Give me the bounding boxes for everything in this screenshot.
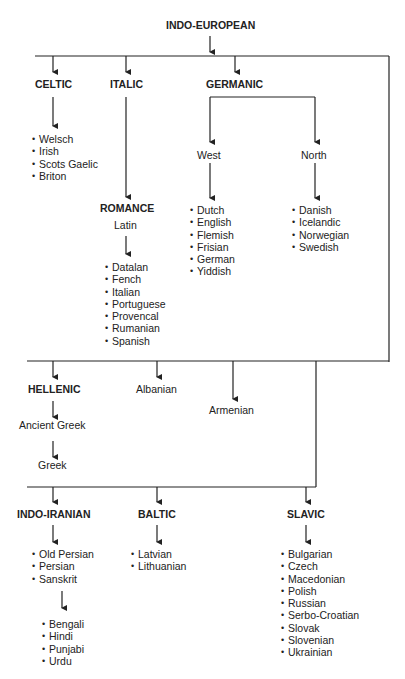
list-item: Irish <box>32 145 98 157</box>
armenian-label: Armenian <box>209 404 254 416</box>
list-item: Russian <box>281 597 359 609</box>
italic-label: ITALIC <box>110 78 143 90</box>
hellenic-label: HELLENIC <box>28 383 81 395</box>
slavic-list: Bulgarian Czech Macedonian Polish Russia… <box>281 548 359 659</box>
list-item: Rumanian <box>105 322 166 334</box>
indo-iranian-list: Old Persian Persian Sanskrit <box>32 548 94 585</box>
list-item: Polish <box>281 585 359 597</box>
list-item: Persian <box>32 560 94 572</box>
list-item: Norwegian <box>292 229 349 241</box>
list-item: German <box>190 253 235 265</box>
romance-list: Datalan Fench Italian Portuguese Provenc… <box>105 261 166 347</box>
north-germanic-list: Danish Icelandic Norwegian Swedish <box>292 204 349 253</box>
list-item: Slovak <box>281 622 359 634</box>
list-item: English <box>190 216 235 228</box>
list-item: Scots Gaelic <box>32 158 98 170</box>
root-label: INDO-EUROPEAN <box>166 19 255 31</box>
baltic-label: BALTIC <box>138 508 176 520</box>
list-item: Briton <box>32 170 98 182</box>
list-item: Welsch <box>32 133 98 145</box>
list-item: Slovenian <box>281 634 359 646</box>
sanskrit-descendants-list: Bengali Hindi Punjabi Urdu <box>42 618 84 667</box>
greek-label: Greek <box>38 459 67 471</box>
list-item: Datalan <box>105 261 166 273</box>
list-item: Icelandic <box>292 216 349 228</box>
list-item: Yiddish <box>190 265 235 277</box>
list-item: Flemish <box>190 229 235 241</box>
germanic-label: GERMANIC <box>206 78 263 90</box>
list-item: Spanish <box>105 335 166 347</box>
list-item: Urdu <box>42 655 84 667</box>
celtic-list: Welsch Irish Scots Gaelic Briton <box>32 133 98 182</box>
list-item: Italian <box>105 286 166 298</box>
list-item: Bulgarian <box>281 548 359 560</box>
romance-label: ROMANCE <box>100 202 154 214</box>
list-item: Danish <box>292 204 349 216</box>
list-item: Old Persian <box>32 548 94 560</box>
list-item: Frisian <box>190 241 235 253</box>
list-item: Macedonian <box>281 573 359 585</box>
celtic-label: CELTIC <box>35 78 72 90</box>
list-item: Lithuanian <box>131 560 186 572</box>
west-label: West <box>197 149 221 161</box>
albanian-label: Albanian <box>136 383 177 395</box>
ancient-greek-label: Ancient Greek <box>19 419 86 431</box>
list-item: Hindi <box>42 630 84 642</box>
list-item: Provencal <box>105 310 166 322</box>
list-item: Serbo-Croatian <box>281 609 359 621</box>
list-item: Swedish <box>292 241 349 253</box>
latin-label: Latin <box>114 219 137 231</box>
list-item: Portuguese <box>105 298 166 310</box>
slavic-label: SLAVIC <box>287 508 325 520</box>
list-item: Dutch <box>190 204 235 216</box>
west-germanic-list: Dutch English Flemish Frisian German Yid… <box>190 204 235 278</box>
list-item: Latvian <box>131 548 186 560</box>
north-label: North <box>301 149 327 161</box>
list-item: Czech <box>281 560 359 572</box>
list-item: Sanskrit <box>32 573 94 585</box>
list-item: Fench <box>105 273 166 285</box>
indo-iranian-label: INDO-IRANIAN <box>17 508 91 520</box>
list-item: Ukrainian <box>281 646 359 658</box>
list-item: Bengali <box>42 618 84 630</box>
list-item: Punjabi <box>42 643 84 655</box>
baltic-list: Latvian Lithuanian <box>131 548 186 573</box>
